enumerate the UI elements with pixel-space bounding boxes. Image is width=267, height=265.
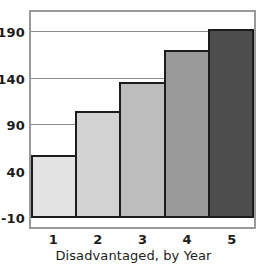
y-tick-label: -10 — [1, 211, 25, 226]
y-tick-label: 40 — [7, 164, 26, 179]
y-tick-label: 90 — [7, 118, 26, 133]
y-tick-label: 190 — [0, 25, 25, 40]
plot-area — [31, 12, 254, 218]
bar-5 — [208, 29, 254, 218]
baseline-rule — [31, 216, 254, 218]
x-axis-title: Disadvantaged, by Year — [0, 248, 267, 263]
chart-screenshot: -104090140190 12345 Disadvantaged, by Ye… — [0, 0, 267, 265]
bar-1 — [31, 155, 77, 218]
bars-group — [31, 12, 254, 218]
y-tick-label: 140 — [0, 71, 25, 86]
bar-3 — [119, 82, 165, 218]
bar-2 — [75, 111, 121, 218]
y-axis-tick-labels: -104090140190 — [0, 0, 29, 265]
bar-4 — [164, 50, 210, 218]
bar-chart-figure: -104090140190 12345 Disadvantaged, by Ye… — [0, 0, 267, 265]
